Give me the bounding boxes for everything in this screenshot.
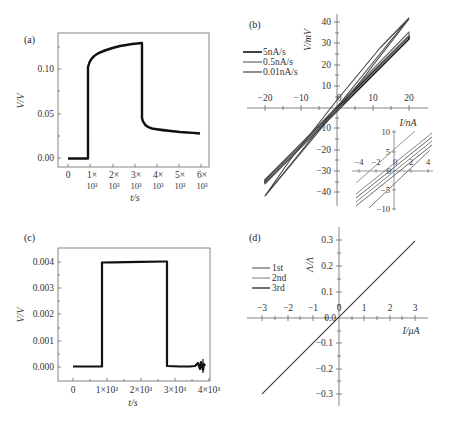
panel-b-xlabel: I/nA <box>398 117 417 128</box>
panel-a-yticks <box>58 47 201 167</box>
panel-c-xtick-3: 3×10³ <box>164 385 187 395</box>
panel-b-ylabel: V/mV <box>302 27 313 51</box>
panel-d-xtick-m3: −3 <box>257 303 267 313</box>
panel-b-ytick-m20: −20 <box>316 145 331 155</box>
panel-d-xlabel: I/μA <box>401 325 420 336</box>
panel-a-ytick-2: 0.10 <box>37 64 54 74</box>
panel-d-ytick-0.3: 0.3 <box>321 235 333 245</box>
panel-b-ytick-30: 30 <box>322 38 332 48</box>
panel-a-xtick-0: 0 <box>66 170 71 180</box>
panel-a-label: (a) <box>24 34 35 46</box>
panel-a-ytick-1: 0.05 <box>37 109 54 119</box>
legend-label-3rd: 3rd <box>272 283 285 293</box>
panel-a-xtick-exp-4: 10³ <box>152 181 164 191</box>
panel-a-ytick-0: 0.00 <box>37 153 54 163</box>
panel-b-ytick-20: 20 <box>322 60 332 70</box>
panel-c-xtick-4: 4×10³ <box>198 385 221 395</box>
panel-c-xtick-2: 2×10³ <box>130 385 153 395</box>
panel-c-xtick-1: 1×10³ <box>96 385 119 395</box>
panel-b-xtick-3: 10 <box>368 93 378 103</box>
panel-a-xtick-6: 6× <box>197 170 207 180</box>
panel-d-legend: 1st 2nd 3rd <box>252 263 287 293</box>
panel-d-label: (d) <box>249 232 261 244</box>
inset-xtick-4: 4 <box>426 157 431 167</box>
inset-xtick-0: −4 <box>354 157 364 167</box>
panel-d-xtick-m2: −2 <box>283 303 293 313</box>
panel-c-xlabel: t/s <box>128 397 138 408</box>
panel-a: (a) 0.00 0.05 0.10 0 1× 2× 3× 4× 5× 6× 1 <box>15 33 209 203</box>
panel-a-xlabel: t/s <box>130 192 140 203</box>
panel-d-ytick-m0.3: −0.3 <box>316 389 333 399</box>
inset-ytick-m10: −10 <box>377 204 390 214</box>
panel-c-ytick-0.001: 0.001 <box>33 336 55 346</box>
panel-a-xtick-exp-5: 10³ <box>174 181 186 191</box>
panel-a-xtick-exp-6: 10³ <box>196 181 208 191</box>
panel-a-xtick-1: 1× <box>87 170 97 180</box>
panel-d: (d) −3 −2 −1 0 1 2 3 0.3 0.2 0.1 0.0 −0.… <box>247 227 428 406</box>
panel-a-frame <box>58 33 209 167</box>
panel-a-xtick-5: 5× <box>175 170 185 180</box>
panel-c-trace <box>73 262 205 371</box>
panel-b-ytick-40: 40 <box>322 17 332 27</box>
legend-label-2nd: 2nd <box>272 273 287 283</box>
figure: (a) 0.00 0.05 0.10 0 1× 2× 3× 4× 5× 6× 1 <box>0 0 450 424</box>
panel-b-xtick-1: −10 <box>294 93 309 103</box>
panel-c-ylabel: V/V <box>15 306 26 323</box>
panel-d-ytick-m0.1: −0.1 <box>316 338 333 348</box>
legend-label-0.01nA: 0.01nA/s <box>263 67 298 77</box>
panel-d-ytick-0.2: 0.2 <box>321 261 333 271</box>
legend-label-5nA: 5nA/s <box>263 47 286 57</box>
panel-b-label: (b) <box>249 19 261 31</box>
panel-d-xtick-3: 3 <box>413 303 418 313</box>
panel-a-xtick-exp-3: 10³ <box>130 181 142 191</box>
panel-b-ytick-m40: −40 <box>316 187 331 197</box>
panel-c-label: (c) <box>24 232 35 244</box>
panel-b-xtick-4: 20 <box>404 93 414 103</box>
legend-label-1st: 1st <box>272 263 283 273</box>
panel-c-xtick-0: 0 <box>71 385 76 395</box>
panel-c-ytick-0.002: 0.002 <box>33 309 55 319</box>
panel-d-traces <box>262 241 415 394</box>
panel-d-ytick-m0.2: −0.2 <box>316 364 333 374</box>
panel-c-ticks <box>58 262 209 381</box>
panel-c: (c) 0.004 0.003 0.002 0.001 0.000 0 1×10… <box>15 232 220 408</box>
panel-a-xtick-2: 2× <box>109 170 119 180</box>
panel-a-xtick-exp-2: 10³ <box>108 181 120 191</box>
panel-b-ytick-m30: −30 <box>316 166 331 176</box>
panel-a-ylabel: V/V <box>15 92 26 109</box>
panel-a-xtick-exp-1: 10³ <box>86 181 98 191</box>
panel-c-ytick-0.003: 0.003 <box>33 283 55 293</box>
panel-a-xtick-4: 4× <box>153 170 163 180</box>
panel-d-ytick-0.1: 0.1 <box>321 287 333 297</box>
panel-d-xtick-2: 2 <box>388 303 393 313</box>
panel-d-xtick-m1: −1 <box>308 303 318 313</box>
panel-d-xtick-0: 0 <box>337 303 342 313</box>
panel-b-inset: −4 −2 0 2 4 10 5 0 −5 −10 <box>352 127 433 214</box>
panel-a-xtick-3: 3× <box>131 170 141 180</box>
panel-a-trace <box>68 43 200 159</box>
panel-c-ytick-0.004: 0.004 <box>33 257 55 267</box>
panel-b-ytick-10: 10 <box>322 81 332 91</box>
panel-c-frame <box>58 248 210 381</box>
inset-ytick-10: 10 <box>382 127 391 137</box>
panel-b-legend: 5nA/s 0.5nA/s 0.01nA/s <box>243 47 298 77</box>
panel-c-ytick-0.000: 0.000 <box>33 362 55 372</box>
panel-b: (b) −20 −10 0 10 20 40 30 20 10 −10 −20 <box>243 14 433 214</box>
panel-d-xtick-1: 1 <box>362 303 367 313</box>
trace-3rd <box>262 241 415 394</box>
panel-d-ylabel: V/V <box>304 257 315 274</box>
legend-label-0.5nA: 0.5nA/s <box>263 57 293 67</box>
inset-ytick-m5: −5 <box>381 185 390 195</box>
panel-b-xtick-0: −20 <box>258 93 273 103</box>
